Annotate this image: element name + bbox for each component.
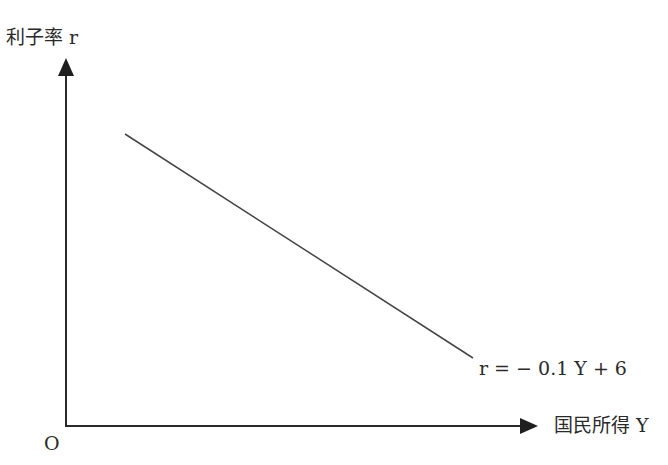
y-axis-arrow-icon: [58, 58, 74, 76]
chart-canvas: [0, 0, 668, 465]
x-axis-label: 国民所得 Y: [554, 416, 649, 435]
origin-label: O: [44, 434, 60, 453]
y-axis-label: 利子率 r: [6, 28, 78, 47]
equation-annotation: r = − 0.1 Y + 6: [479, 359, 627, 378]
series-line: [125, 134, 473, 358]
x-axis-arrow-icon: [520, 418, 538, 434]
